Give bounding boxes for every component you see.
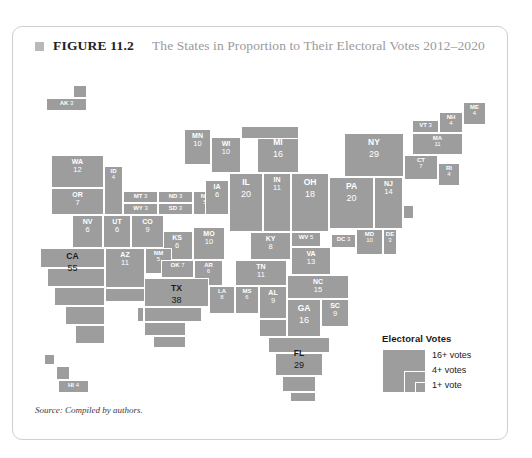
state-votes: 4 xyxy=(439,171,459,178)
state-votes: 4 xyxy=(105,174,122,181)
state-ID[interactable]: ID 4 xyxy=(104,166,123,215)
state-votes: 5 xyxy=(310,234,313,240)
state-AZ[interactable]: AZ 11 xyxy=(105,248,145,288)
state-votes: 6 xyxy=(73,225,102,235)
state-code: CT xyxy=(405,156,437,163)
state-votes: 14 xyxy=(375,187,402,197)
state-IA[interactable]: IA 6 xyxy=(205,180,229,215)
state-MT[interactable]: MT 3 xyxy=(123,191,158,203)
state-votes: 3 xyxy=(347,236,350,242)
texas-block-3 xyxy=(137,307,144,322)
state-code: OH xyxy=(292,174,328,187)
state-votes: 11 xyxy=(236,270,286,280)
state-votes: 3 xyxy=(384,237,396,244)
state-code: OK xyxy=(170,262,179,268)
state-VA[interactable]: VA 13 xyxy=(291,247,331,275)
state-NY[interactable]: NY 29 xyxy=(344,133,404,177)
state-votes: 55 xyxy=(40,261,105,273)
state-HI[interactable]: HI 4 xyxy=(58,380,89,393)
state-votes: 16 xyxy=(288,313,320,325)
state-code: ID xyxy=(105,167,122,174)
state-code: IN xyxy=(264,174,290,183)
state-code: TN xyxy=(236,261,286,270)
source-note: Source: Compiled by authors. xyxy=(35,405,143,415)
state-MO[interactable]: MO 10 xyxy=(193,227,225,260)
state-MS[interactable]: MS 6 xyxy=(235,286,259,314)
state-CT[interactable]: CT 7 xyxy=(404,155,438,180)
state-votes: 12 xyxy=(52,165,103,175)
state-WY[interactable]: WY 3 xyxy=(123,203,158,215)
state-OR[interactable]: OR 7 xyxy=(51,188,104,215)
state-votes: 10 xyxy=(357,237,382,244)
state-votes: 3 xyxy=(70,100,73,106)
state-MA[interactable]: MA 11 xyxy=(412,133,463,155)
state-DE[interactable]: DE 3 xyxy=(383,229,397,255)
state-TX[interactable]: TX 38 xyxy=(144,280,209,316)
state-NJ[interactable]: NJ 14 xyxy=(374,177,403,229)
state-FL[interactable]: FL 29 xyxy=(268,345,330,381)
state-PA[interactable]: PA 20 xyxy=(329,177,374,229)
hawaii-islet-2 xyxy=(56,366,70,380)
state-votes: 20 xyxy=(330,191,373,203)
state-NH[interactable]: NH 4 xyxy=(439,112,463,133)
texas-block-5 xyxy=(153,336,186,348)
state-IL[interactable]: IL 20 xyxy=(229,173,263,232)
state-LA[interactable]: LA 8 xyxy=(209,286,235,314)
state-GA[interactable]: GA 16 xyxy=(287,299,321,337)
state-NV[interactable]: NV 6 xyxy=(72,215,103,248)
state-AK[interactable]: AK 3 xyxy=(46,98,87,111)
state-votes: 38 xyxy=(144,293,209,305)
state-code: WY xyxy=(133,205,143,211)
state-votes: 3 xyxy=(179,193,182,199)
state-votes: 10 xyxy=(194,237,224,247)
state-OK[interactable]: OK 7 xyxy=(161,260,194,278)
state-RI[interactable]: RI 4 xyxy=(438,163,460,186)
state-code: MN xyxy=(185,130,210,139)
state-code: ME xyxy=(464,103,485,110)
state-MI[interactable]: MI 16 xyxy=(257,133,299,173)
state-votes: 7 xyxy=(181,262,184,268)
georgia-alabama-filler xyxy=(259,319,287,337)
state-AL[interactable]: AL 9 xyxy=(259,286,287,319)
state-IN[interactable]: IN 11 xyxy=(263,173,291,232)
state-SD[interactable]: SD 3 xyxy=(158,203,193,215)
state-CO[interactable]: CO 9 xyxy=(131,215,164,248)
state-code: WV xyxy=(299,234,309,240)
state-code: TX xyxy=(144,280,209,293)
state-UT[interactable]: UT 6 xyxy=(103,215,131,248)
state-code: IA xyxy=(206,181,228,190)
state-votes: 6 xyxy=(195,268,222,275)
state-OH[interactable]: OH 18 xyxy=(291,173,329,232)
florida-block-4 xyxy=(290,392,316,402)
state-code: DC xyxy=(337,236,346,242)
state-KY[interactable]: KY 8 xyxy=(250,232,291,260)
state-WV[interactable]: WV 5 xyxy=(291,232,321,247)
state-votes: 3 xyxy=(145,205,148,211)
state-WA[interactable]: WA 12 xyxy=(51,155,104,188)
state-MN[interactable]: MN 10 xyxy=(184,129,211,165)
texas-block-4 xyxy=(144,322,186,336)
state-TN[interactable]: TN 11 xyxy=(235,260,287,286)
state-code: CA xyxy=(40,248,105,261)
state-votes: 13 xyxy=(292,257,330,267)
state-VT[interactable]: VT 3 xyxy=(412,120,439,133)
hawaii-islet-1 xyxy=(44,354,55,365)
state-code: OR xyxy=(52,189,103,198)
legend-title: Electoral Votes xyxy=(382,333,498,344)
state-ND[interactable]: ND 3 xyxy=(158,191,193,203)
state-WI[interactable]: WI 10 xyxy=(211,137,241,173)
state-code: AK xyxy=(60,100,69,106)
state-SC[interactable]: SC 9 xyxy=(321,299,349,327)
state-DC[interactable]: DC 3 xyxy=(331,234,356,248)
state-ME[interactable]: ME 4 xyxy=(463,102,486,125)
state-votes: 4 xyxy=(76,382,79,388)
state-votes: 3 xyxy=(429,122,432,128)
state-code: VT xyxy=(419,122,427,128)
state-code: MD xyxy=(357,230,382,237)
state-MD[interactable]: MD 10 xyxy=(356,229,383,255)
state-CA[interactable]: CA 55 xyxy=(40,248,105,286)
state-code: WI xyxy=(212,138,240,147)
state-code: SC xyxy=(322,300,348,309)
state-NC[interactable]: NC 15 xyxy=(287,275,349,299)
state-votes: 8 xyxy=(251,242,290,252)
